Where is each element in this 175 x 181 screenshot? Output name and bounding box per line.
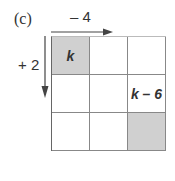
grid-cell: [52, 113, 90, 151]
number-grid: kk – 6: [51, 36, 166, 151]
grid-cell: k – 6: [128, 75, 166, 113]
right-arrow-icon: [51, 28, 113, 36]
down-arrow-icon: [41, 36, 49, 98]
grid-cell: [128, 113, 166, 151]
part-label: (c): [14, 10, 32, 28]
grid-cell: [90, 113, 128, 151]
grid-cell: [90, 75, 128, 113]
horizontal-step-label: – 4: [70, 8, 91, 25]
vertical-step-label: + 2: [18, 56, 39, 73]
grid-cell: [52, 75, 90, 113]
grid-cell: [128, 37, 166, 75]
grid-cell: [90, 37, 128, 75]
grid-cell: k: [52, 37, 90, 75]
